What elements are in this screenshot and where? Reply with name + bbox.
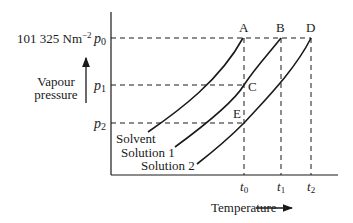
p0-annotation: 101 325 Nm−2 (17, 30, 92, 46)
point-e-label: E (233, 106, 241, 121)
point-c-label: C (248, 79, 257, 94)
t0-label: t0 (240, 179, 249, 195)
p0-label: p0 (93, 31, 106, 47)
vapour-pressure-diagram: 101 325 Nm−2 p0 p1 p2 Vapour pressure t0… (0, 0, 353, 223)
point-d-label: D (306, 20, 315, 35)
solution-1-curve (175, 38, 281, 147)
solution-2-curve-label: Solution 2 (141, 158, 195, 173)
t1-label: t1 (277, 179, 285, 195)
solvent-curve-label: Solvent (116, 131, 156, 146)
p1-label: p1 (93, 78, 106, 94)
p2-label: p2 (93, 116, 106, 132)
point-a-label: A (239, 20, 249, 35)
y-axis-label-line2: pressure (34, 87, 78, 102)
t2-label: t2 (307, 179, 315, 195)
solution-2-curve (197, 38, 311, 164)
point-b-label: B (276, 20, 285, 35)
